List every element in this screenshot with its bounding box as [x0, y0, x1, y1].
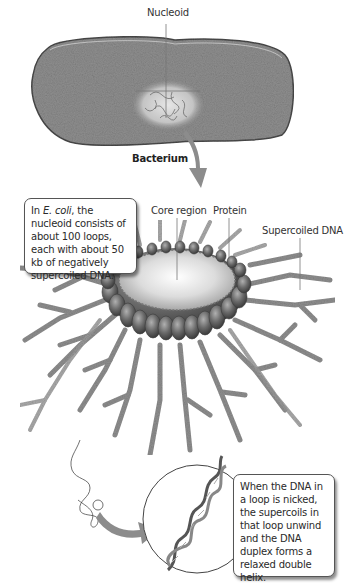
callout-species: E. coli	[43, 205, 71, 216]
nicked-loop-callout: When the DNA in a loop is nicked, the su…	[233, 474, 335, 577]
bacterium-cell	[32, 24, 293, 145]
callout-prefix: In	[31, 205, 43, 216]
nucleoid-label: Nucleoid	[147, 7, 189, 18]
callout-rest: , the nucleoid consists of about 100 loo…	[31, 205, 126, 281]
protein-label: Protein	[213, 205, 247, 216]
core-region-label: Core region	[151, 205, 207, 216]
nucleoid-info-callout: In E. coli, the nucleoid consists of abo…	[24, 198, 137, 274]
callout-text: When the DNA in a loop is nicked, the su…	[240, 481, 323, 583]
supercoiled-dna-label: Supercoiled DNA	[262, 225, 343, 236]
bacterium-label: Bacterium	[132, 153, 188, 164]
relaxed-loop-strand	[71, 440, 98, 527]
nicked-site-circle	[93, 500, 103, 510]
